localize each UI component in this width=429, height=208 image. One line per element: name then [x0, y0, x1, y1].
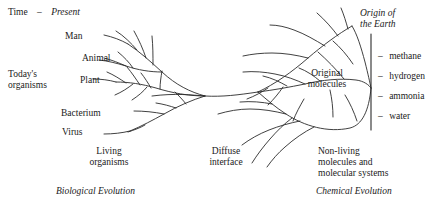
- todays-organisms-label: Today's organisms: [8, 69, 47, 91]
- left-branch-bacterium-1: [134, 111, 164, 114]
- diffuse-interface-line1: Diffuse: [198, 146, 254, 157]
- time-label: Time: [8, 7, 28, 17]
- left-branch-man-3: [134, 31, 146, 58]
- molecule-label-ammonia: ammonia: [385, 91, 424, 101]
- time-axis-label: Time – Present: [8, 7, 80, 18]
- branch-label-virus: Virus: [62, 127, 83, 138]
- molecule-label-hydrogen: hydrogen: [385, 71, 425, 81]
- living-organisms-label: Living organisms: [74, 146, 144, 168]
- diffuse-interface-line2: interface: [198, 157, 254, 168]
- left-branch-plant-6: [115, 84, 133, 95]
- right-branch-lower-1: [218, 109, 286, 114]
- molecule-dash-hydrogen: –: [378, 71, 383, 81]
- branch-label-bacterium: Bacterium: [61, 108, 101, 119]
- branch-label-man: Man: [65, 31, 82, 42]
- present-label: Present: [51, 7, 80, 17]
- right-limb-lower: [258, 88, 371, 130]
- molecule-item-methane: – methane: [378, 51, 421, 62]
- non-living-molecules-label: Non-living molecules and molecular syste…: [318, 146, 388, 179]
- todays-organisms-line2: organisms: [8, 80, 47, 91]
- left-branch-plant-2: [107, 72, 126, 83]
- right-branch-upper-4: [341, 8, 348, 29]
- living-organisms-line2: organisms: [74, 157, 144, 168]
- molecule-item-ammonia: – ammonia: [378, 91, 424, 102]
- origin-of-earth-line1: Origin of: [360, 8, 396, 19]
- molecule-dash-ammonia: –: [378, 91, 383, 101]
- left-limb-lower: [130, 96, 205, 131]
- left-branch-plant-5: [160, 71, 162, 89]
- original-molecules-line2: molecules: [298, 79, 356, 90]
- right-branch-lower-8: [345, 95, 357, 121]
- left-branch-man-2: [116, 31, 137, 50]
- caption-biological-evolution: Biological Evolution: [56, 186, 135, 197]
- non-living-line3: molecular systems: [318, 168, 388, 179]
- molecule-label-water: water: [385, 111, 410, 121]
- right-branch-lower-2: [240, 102, 272, 104]
- right-branch-upper-2: [270, 25, 325, 46]
- caption-chemical-evolution: Chemical Evolution: [316, 186, 392, 197]
- left-branch-man-1: [104, 35, 128, 44]
- time-dash: –: [30, 7, 49, 18]
- right-branch-upper-3: [317, 13, 338, 36]
- right-branch-lower-6: [293, 99, 304, 121]
- original-molecules-line1: Original: [298, 68, 356, 79]
- branch-label-animal: Animal: [82, 53, 111, 64]
- non-living-line1: Non-living: [318, 146, 388, 157]
- right-branch-lower-7: [330, 90, 333, 117]
- left-branch-bacterium-2: [156, 103, 176, 108]
- right-branch-lower-4: [267, 127, 314, 167]
- living-organisms-line1: Living: [74, 146, 144, 157]
- right-branch-mid-1: [243, 72, 305, 84]
- molecule-item-hydrogen: – hydrogen: [378, 71, 425, 82]
- right-branch-upper-1: [243, 53, 308, 58]
- molecule-label-methane: methane: [385, 51, 421, 61]
- molecule-dash-water: –: [378, 111, 383, 121]
- non-living-line2: molecules and: [318, 157, 388, 168]
- right-branch-upper-5: [333, 41, 353, 64]
- origin-of-earth-label: Origin of the Earth: [360, 8, 396, 30]
- molecule-dash-methane: –: [378, 51, 383, 61]
- left-branch-virus-2: [128, 125, 145, 132]
- original-molecules-label: Original molecules: [298, 68, 356, 90]
- diffuse-interface-label: Diffuse interface: [198, 146, 254, 168]
- left-branch-plant-7: [132, 87, 147, 100]
- molecule-item-water: – water: [378, 111, 410, 122]
- left-branch-man-4: [152, 36, 153, 65]
- left-branch-virus-1: [104, 131, 130, 134]
- origin-of-earth-line2: the Earth: [360, 19, 396, 30]
- todays-organisms-line1: Today's: [8, 69, 47, 80]
- branch-label-plant: Plant: [80, 75, 100, 86]
